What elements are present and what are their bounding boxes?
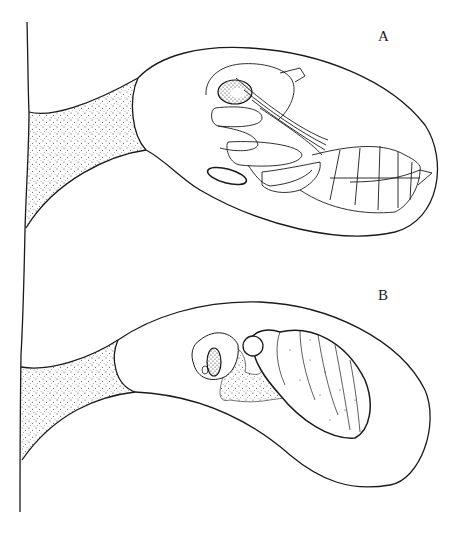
- panel-b-larva: [192, 330, 370, 438]
- line-drawing: [0, 0, 450, 535]
- panel-a-connector: [26, 78, 146, 228]
- panel-a-oval: [206, 164, 248, 188]
- panel-label-a: A: [378, 28, 389, 45]
- panel-a-pupa: [206, 64, 432, 213]
- panel-label-b: B: [378, 287, 388, 304]
- panel-a-cell: [138, 47, 438, 236]
- panel-b-connector: [21, 340, 135, 460]
- scientific-illustration: A B: [0, 0, 450, 535]
